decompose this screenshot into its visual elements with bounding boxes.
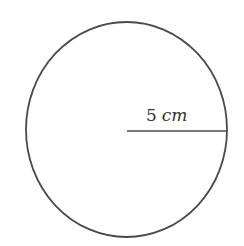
circle-diagram: 5cm xyxy=(0,0,244,246)
circle-outline xyxy=(26,22,227,237)
radius-label: 5cm xyxy=(146,105,187,125)
radius-value: 5 xyxy=(146,105,157,125)
radius-unit: cm xyxy=(162,105,188,125)
